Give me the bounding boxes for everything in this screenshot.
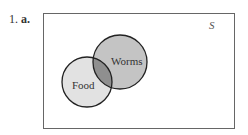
universe-label: S [209,19,215,31]
worms-label: Worms [111,55,143,67]
venn-diagram: Worms Food S [0,0,248,135]
food-label: Food [72,79,95,91]
